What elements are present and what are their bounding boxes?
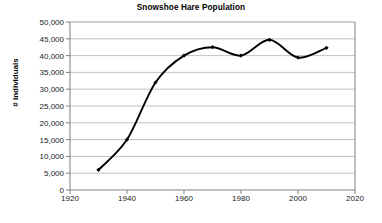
data-point-marker: [239, 54, 243, 58]
plot-area: [0, 0, 382, 223]
chart-container: Snowshoe Hare Population # individuals 0…: [0, 0, 382, 223]
data-point-marker: [296, 56, 300, 60]
data-series-line: [99, 40, 327, 170]
data-point-marker: [267, 38, 271, 42]
data-point-marker: [210, 45, 214, 49]
